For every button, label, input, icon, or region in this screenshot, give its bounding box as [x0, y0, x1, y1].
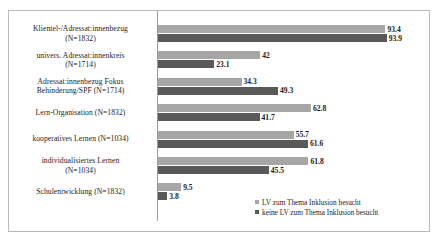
legend-item[interactable]: LV zum Thema Inklusion besucht [255, 197, 427, 207]
bar-value-label: 93.4 [387, 25, 400, 34]
bar-value-label: 55.7 [296, 130, 309, 139]
bar-value-label: 34.3 [244, 77, 257, 86]
category-label-line: (N=1714) [9, 60, 152, 69]
bar-row: 41.7 [158, 113, 428, 121]
bar [158, 166, 269, 174]
bar-value-label: 62.8 [313, 104, 326, 113]
bar-value-label: 23.1 [216, 60, 229, 69]
category-label-line: kooperatives Lernen (N=1034) [9, 134, 152, 143]
bar-group: individualisiertes Lernen(N=1034)61.845.… [9, 157, 429, 174]
bar-row: 55.7 [158, 131, 428, 139]
bar-group: Klientel-/Adressat:innenbezug(N=1832)93.… [9, 25, 429, 42]
bar-value-label: 49.3 [280, 86, 293, 95]
chart-legend: LV zum Thema Inklusion besuchtkeine LV z… [255, 197, 427, 217]
category-axis-line [157, 11, 158, 221]
bar [158, 113, 260, 121]
category-label: kooperatives Lernen (N=1034) [9, 134, 152, 143]
bar [158, 25, 385, 33]
bar-row: 45.5 [158, 166, 428, 174]
bar-group: kooperatives Lernen (N=1034)55.761.6 [9, 131, 429, 148]
bar-row: 9.5 [158, 183, 428, 191]
bar [158, 192, 167, 200]
bar-row: 62.8 [158, 104, 428, 112]
legend-swatch-icon [255, 200, 259, 204]
category-label: Adressat:innenbezug FokusBehinderung/SPF… [9, 77, 152, 95]
bar [158, 131, 294, 139]
bar-row: 61.8 [158, 157, 428, 165]
bar-row: 93.9 [158, 34, 428, 42]
bar [158, 140, 308, 148]
bar-row: 61.6 [158, 140, 428, 148]
bar [158, 51, 260, 59]
category-label: individualisiertes Lernen(N=1034) [9, 156, 152, 174]
bar [158, 104, 311, 112]
bar-value-label: 61.6 [310, 139, 323, 148]
legend-label: LV zum Thema Inklusion besucht [262, 198, 361, 207]
bar [158, 157, 308, 165]
category-label: Klientel-/Adressat:innenbezug(N=1832) [9, 24, 152, 42]
bar-value-label: 61.8 [310, 157, 323, 166]
category-label-line: Klientel-/Adressat:innenbezug [9, 24, 152, 33]
category-label-line: Adressat:innenbezug Fokus [9, 77, 152, 86]
category-label-line: (N=1034) [9, 166, 152, 175]
bar-group: univers. Adressat:innenkreis(N=1714)4223… [9, 51, 429, 68]
bar [158, 183, 181, 191]
category-label: univers. Adressat:innenkreis(N=1714) [9, 51, 152, 69]
category-label-line: univers. Adressat:innenkreis [9, 51, 152, 60]
category-label-line: (N=1832) [9, 34, 152, 43]
bar-group: Lern-Organisation (N=1832)62.841.7 [9, 104, 429, 121]
bar-row: 49.3 [158, 87, 428, 95]
category-label-line: Lern-Organisation (N=1832) [9, 108, 152, 117]
bar [158, 87, 278, 95]
bar-value-label: 42 [262, 51, 270, 60]
bar [158, 78, 242, 86]
category-label-line: Behinderung/SPF (N=1714) [9, 86, 152, 95]
bar-chart: Klientel-/Adressat:innenbezug(N=1832)93.… [8, 10, 430, 232]
bar-row: 23.1 [158, 60, 428, 68]
bar-row: 34.3 [158, 78, 428, 86]
category-label-line: Schulentwicklung (N=1832) [9, 187, 152, 196]
bar-value-label: 3.8 [169, 192, 179, 201]
bar [158, 60, 214, 68]
category-label: Lern-Organisation (N=1832) [9, 108, 152, 117]
bar-value-label: 41.7 [262, 113, 275, 122]
bar-value-label: 9.5 [183, 183, 193, 192]
bar-value-label: 45.5 [271, 166, 284, 175]
bar-row: 93.4 [158, 25, 428, 33]
legend-swatch-icon [255, 210, 259, 214]
bar [158, 34, 387, 42]
category-label-line: individualisiertes Lernen [9, 156, 152, 165]
category-label: Schulentwicklung (N=1832) [9, 187, 152, 196]
bar-group: Adressat:innenbezug FokusBehinderung/SPF… [9, 78, 429, 95]
bar-row: 42 [158, 51, 428, 59]
legend-item[interactable]: keine LV zum Thema Inklusion besucht [255, 207, 427, 217]
legend-label: keine LV zum Thema Inklusion besucht [262, 208, 378, 217]
bar-value-label: 93.9 [389, 34, 402, 43]
